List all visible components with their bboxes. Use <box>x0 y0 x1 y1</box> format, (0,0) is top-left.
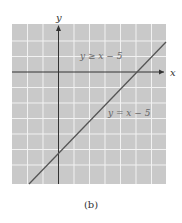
x-axis-label: x <box>170 67 176 78</box>
figure-caption: (b) <box>0 199 182 210</box>
region-label: y ≥ x − 5 <box>79 51 123 61</box>
graph: x y y ≥ x − 5 y = x − 5 <box>0 0 182 200</box>
line-label: y = x − 5 <box>107 108 151 118</box>
y-axis-label: y <box>55 12 62 23</box>
